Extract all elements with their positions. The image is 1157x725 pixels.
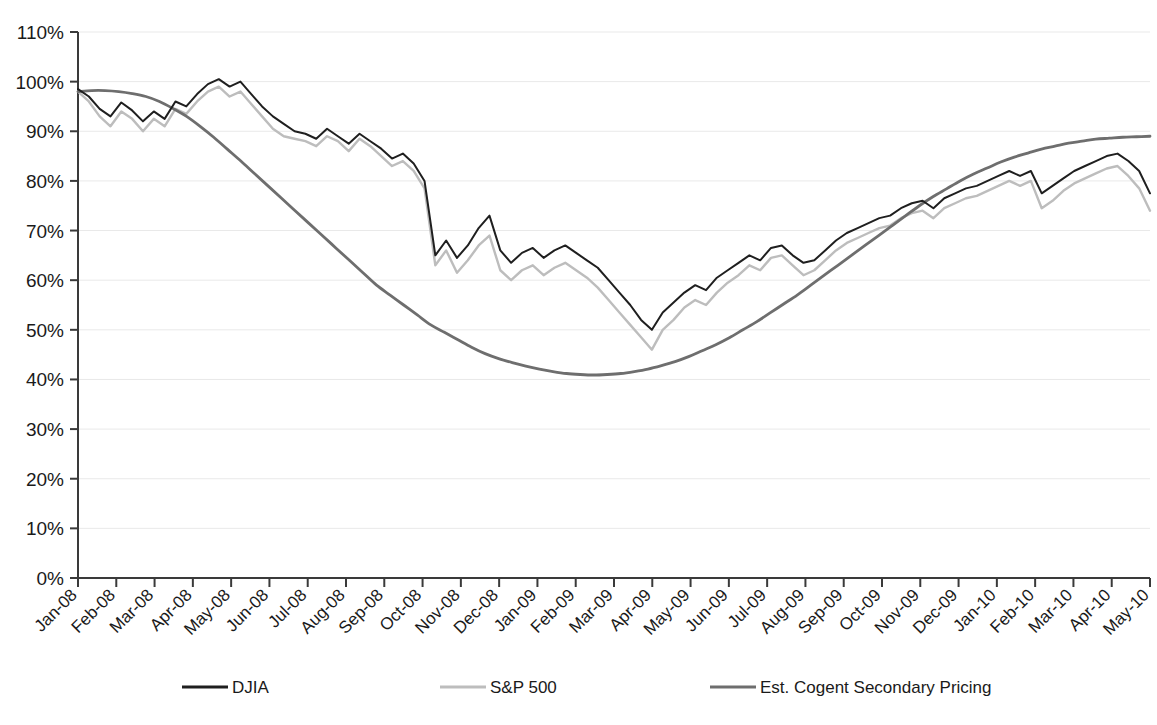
legend-label: Est. Cogent Secondary Pricing <box>760 678 992 697</box>
chart-container: 0%10%20%30%40%50%60%70%80%90%100%110% Ja… <box>0 0 1157 725</box>
y-tick-label: 60% <box>26 270 64 291</box>
legend-label: DJIA <box>232 678 270 697</box>
y-tick-label: 10% <box>26 518 64 539</box>
y-tick-label: 90% <box>26 121 64 142</box>
y-tick-label: 20% <box>26 469 64 490</box>
y-tick-label: 80% <box>26 171 64 192</box>
y-tick-label: 0% <box>37 568 65 589</box>
line-chart: 0%10%20%30%40%50%60%70%80%90%100%110% Ja… <box>0 0 1157 725</box>
y-tick-label: 110% <box>17 22 64 43</box>
y-tick-label: 50% <box>26 320 64 341</box>
legend-label: S&P 500 <box>490 678 557 697</box>
y-tick-label: 40% <box>26 369 64 390</box>
y-tick-label: 70% <box>26 221 64 242</box>
y-tick-label: 100% <box>15 72 64 93</box>
y-tick-label: 30% <box>26 419 64 440</box>
